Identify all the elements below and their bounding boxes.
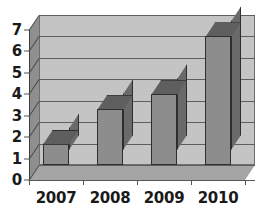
x-axis-tick-label: 2009 xyxy=(137,188,191,208)
y-axis-tick xyxy=(24,51,29,52)
bar-chart: 01234567 2007200820092010 xyxy=(0,0,263,211)
bar xyxy=(151,94,177,165)
x-axis-tick xyxy=(83,180,84,185)
x-axis-tick-label: 2010 xyxy=(191,188,245,208)
y-axis-tick-label: 1 xyxy=(0,151,22,166)
bar-front-face xyxy=(43,144,69,165)
plot-area xyxy=(29,15,255,180)
y-axis-tick-label: 5 xyxy=(0,65,22,80)
bar-front-face xyxy=(97,109,123,165)
y-axis-tick-label: 2 xyxy=(0,130,22,145)
x-axis-tick-label: 2007 xyxy=(29,188,83,208)
y-axis-tick-label: 0 xyxy=(0,173,22,188)
x-axis-tick xyxy=(137,180,138,185)
bar-front-face xyxy=(151,94,177,165)
bar xyxy=(205,36,231,165)
y-axis-tick-label: 7 xyxy=(0,23,22,38)
y-axis-tick-label: 4 xyxy=(0,87,22,102)
bar-side-face xyxy=(177,64,187,150)
x-axis-tick xyxy=(191,180,192,185)
y-axis-tick-label: 3 xyxy=(0,108,22,123)
gridline xyxy=(39,165,255,166)
x-axis-tick-label: 2008 xyxy=(83,188,137,208)
y-axis-tick-label: 6 xyxy=(0,44,22,59)
bar xyxy=(43,144,69,165)
y-axis-tick xyxy=(24,94,29,95)
x-axis-line xyxy=(29,180,255,181)
chart-floor xyxy=(29,165,255,180)
x-axis-labels: 2007200820092010 xyxy=(29,188,255,210)
bar-front-face xyxy=(205,36,231,165)
x-axis-tick xyxy=(29,180,30,185)
gridline xyxy=(39,15,255,16)
y-axis-tick xyxy=(24,137,29,138)
x-axis-tick xyxy=(245,180,246,185)
y-axis-tick xyxy=(24,30,29,31)
y-axis-labels: 01234567 xyxy=(0,0,24,180)
y-axis-tick xyxy=(24,115,29,116)
y-axis-tick xyxy=(24,158,29,159)
bar xyxy=(97,109,123,165)
y-axis-tick xyxy=(24,72,29,73)
